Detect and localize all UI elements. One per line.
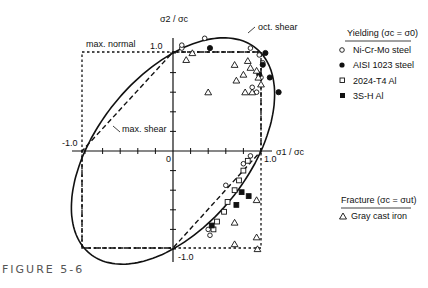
open-triangle-marker bbox=[240, 71, 247, 77]
open-circle-marker bbox=[208, 233, 213, 238]
open-triangle-marker bbox=[242, 89, 249, 95]
open-triangle-marker bbox=[247, 65, 254, 71]
legend-item: Ni-Cr-Mo steel bbox=[353, 45, 411, 55]
y-tick-label-1: 1.0 bbox=[150, 41, 163, 51]
legend-item: Gray cast iron bbox=[351, 211, 407, 221]
open-circle-marker bbox=[248, 46, 253, 51]
filled-square-marker bbox=[239, 190, 244, 195]
open-triangle-marker bbox=[253, 234, 260, 240]
filled-square-marker bbox=[209, 223, 214, 228]
open-circle-marker bbox=[202, 36, 207, 41]
legend-yielding-title: Yielding (σc = σ0) bbox=[347, 28, 418, 38]
figure-caption: FIGURE 5-6 bbox=[2, 263, 84, 276]
open-triangle-marker bbox=[258, 81, 265, 87]
legend-item: 3S-H Al bbox=[353, 91, 384, 101]
filled-circle-marker bbox=[263, 50, 268, 55]
open-triangle-marker bbox=[231, 62, 238, 68]
open-square-marker bbox=[232, 188, 237, 193]
y-tick-label-neg1: -1.0 bbox=[178, 252, 194, 262]
open-triangle-marker bbox=[254, 246, 261, 252]
filled-circle-marker bbox=[267, 75, 272, 80]
open-square-marker bbox=[225, 200, 230, 205]
filled-circle-marker bbox=[207, 46, 212, 51]
legend-item: AISI 1023 steel bbox=[353, 60, 414, 70]
open-triangle-marker bbox=[233, 77, 240, 83]
open-triangle-marker bbox=[231, 241, 238, 247]
data-points bbox=[180, 36, 282, 252]
open-triangle-marker bbox=[183, 57, 190, 63]
x-tick-label-neg1: -1.0 bbox=[62, 138, 78, 148]
max-normal-label: max. normal bbox=[86, 39, 136, 49]
legend-item: 2024-T4 Al bbox=[353, 76, 397, 86]
open-triangle-marker bbox=[253, 197, 260, 203]
open-square-marker bbox=[222, 209, 227, 214]
axes bbox=[72, 38, 272, 262]
filled-square-marker bbox=[234, 203, 239, 208]
x-tick-label-1: 1.0 bbox=[264, 154, 277, 164]
max-shear-label: max. shear bbox=[122, 124, 167, 134]
open-circle-marker bbox=[248, 154, 253, 159]
x-axis-label: σ1 / σc bbox=[276, 147, 305, 157]
open-triangle-marker bbox=[205, 89, 212, 95]
filled-circle-marker bbox=[276, 90, 281, 95]
open-triangle-marker bbox=[244, 58, 251, 64]
open-square-marker bbox=[241, 168, 246, 173]
open-circle-marker bbox=[257, 53, 262, 58]
open-square-marker bbox=[245, 158, 250, 163]
legend-fracture-title: Fracture (σc = σut) bbox=[341, 195, 416, 205]
open-square-marker bbox=[215, 219, 220, 224]
failure-envelope-chart: σ2 / σc σ1 / σc 1.0 -1.0 -1.0 0 1.0 max.… bbox=[0, 0, 428, 288]
open-triangle-marker bbox=[231, 219, 238, 225]
filled-square-marker bbox=[246, 194, 251, 199]
open-circle-marker bbox=[180, 43, 185, 48]
open-circle-marker bbox=[224, 183, 229, 188]
legend: Yielding (σc = σ0) Ni-Cr-Mo steel AISI 1… bbox=[339, 28, 418, 221]
open-square-marker bbox=[237, 178, 242, 183]
filled-circle-marker bbox=[260, 62, 265, 67]
x-tick-label-0: 0 bbox=[166, 154, 171, 164]
y-axis-label: σ2 / σc bbox=[160, 14, 189, 24]
oct-shear-label: oct. shear bbox=[258, 22, 298, 32]
